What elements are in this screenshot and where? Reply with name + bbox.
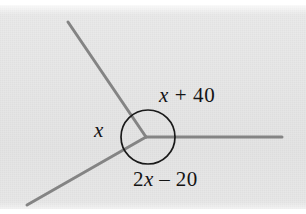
angle-label-2x-minus-20: 2x – 20 bbox=[133, 169, 198, 190]
angle-label-x-plus-40-op-sign: + bbox=[175, 83, 187, 107]
angle-label-2x-minus-20-op-sign: – bbox=[159, 167, 170, 191]
ray-lower-left bbox=[27, 137, 146, 205]
angle-label-2x-minus-20-coefficient: 2 bbox=[133, 167, 144, 191]
angle-label-2x-minus-20-constant: 20 bbox=[176, 167, 198, 191]
geometry-figure: x + 40 x 2x – 20 bbox=[0, 0, 306, 214]
angle-label-x: x bbox=[94, 120, 103, 141]
angle-label-x-plus-40-variable: x bbox=[159, 83, 169, 107]
ray-upper-left bbox=[68, 22, 146, 137]
angle-label-x-plus-40-constant: 40 bbox=[193, 83, 215, 107]
angle-label-x-variable: x bbox=[94, 118, 103, 142]
angle-label-2x-minus-20-variable: x bbox=[144, 167, 154, 191]
angle-label-x-plus-40: x + 40 bbox=[159, 85, 215, 106]
